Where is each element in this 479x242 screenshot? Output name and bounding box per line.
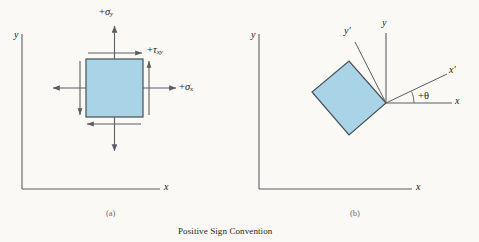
panel-b-sublabel: (b) [350,208,360,218]
panel-a-y-axis-label: y [14,30,18,40]
panel-b-reference-y-label: y [382,18,386,28]
sigma-x-subscript: x [190,85,193,93]
panel-b-rotated-y-label: y′ [344,26,351,36]
panel-b-theta-label: +θ [418,91,429,102]
figure-caption: Positive Sign Convention [178,226,272,236]
figure-vector-graphics [0,0,479,242]
panel-a-x-axis-label: x [164,182,168,192]
tau-xy-subscript: xy [157,48,163,56]
panel-b-x-axis-label: x [416,182,420,192]
panel-b-rotated-x-label: x′ [449,65,456,75]
panel-a-sublabel: (a) [106,208,115,218]
panel-b-reference-x-label: x [455,96,459,106]
panel-a-sigma-y-label: +σy [99,7,113,18]
sigma-y-subscript: y [110,10,113,18]
panel-a-tau-xy-label: +τxy [147,45,163,56]
panel-b-rotated-element [312,61,386,135]
figure-positive-sign-convention: y x +σy +τxy +σx (a) y x y x y′ x′ +θ (b… [0,0,479,242]
panel-b-y-axis-label: y [251,30,255,40]
panel-a-sigma-x-label: +σx [179,82,193,93]
panel-a-stress-element [86,59,143,117]
